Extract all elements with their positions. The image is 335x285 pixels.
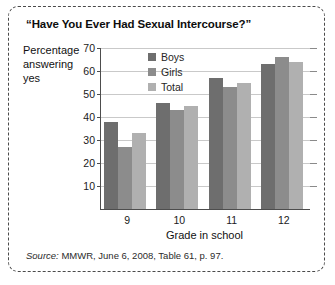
legend-item-girls: Girls: [148, 66, 184, 78]
page-title: “Have You Ever Had Sexual Intercourse?”: [26, 18, 251, 30]
bar-boys-grade-10: [156, 103, 170, 209]
y-axis-tick-right: [310, 140, 317, 141]
bar-total-grade-11: [237, 83, 251, 210]
x-axis-title: Grade in school: [100, 229, 309, 241]
x-axis-tick-label: 9: [104, 214, 150, 226]
plot-area: 706050403020109101112: [100, 48, 310, 210]
bar-group: 11: [209, 48, 255, 209]
source-note: Source: MMWR, June 6, 2008, Table 61, p.…: [26, 250, 223, 261]
bar-girls-grade-10: [170, 110, 184, 209]
legend-label: Total: [161, 81, 183, 93]
y-axis-tick: [97, 117, 101, 118]
bar-girls-grade-12: [275, 57, 289, 209]
y-axis-tick-right: [310, 163, 317, 164]
y-axis-tick: [97, 48, 101, 49]
figure-card: “Have You Ever Had Sexual Intercourse?” …: [8, 6, 325, 272]
source-label: Source:: [26, 250, 59, 261]
x-axis-tick-label: 10: [156, 214, 202, 226]
legend-swatch-icon: [148, 83, 156, 91]
legend-swatch-icon: [148, 68, 156, 76]
y-axis-tick-label: 30: [83, 134, 95, 146]
bar-total-grade-9: [132, 133, 146, 209]
legend-label: Boys: [161, 51, 184, 63]
source-text: MMWR, June 6, 2008, Table 61, p. 97.: [59, 250, 224, 261]
y-axis-title: Percentage answering yes: [23, 43, 85, 85]
legend-item-total: Total: [148, 81, 184, 93]
bar-boys-grade-9: [104, 122, 118, 209]
y-axis-title-line-1: Percentage: [23, 43, 85, 57]
y-axis-tick: [97, 94, 101, 95]
y-axis-tick-right: [310, 94, 317, 95]
legend-item-boys: Boys: [148, 51, 184, 63]
y-axis-tick: [97, 186, 101, 187]
legend-label: Girls: [161, 66, 183, 78]
y-axis-title-line-3: yes: [23, 71, 85, 85]
bar-boys-grade-12: [261, 64, 275, 209]
y-axis-tick-label: 70: [83, 42, 95, 54]
bar-group: 12: [261, 48, 307, 209]
y-axis-tick-right: [310, 71, 317, 72]
y-axis-tick-right: [310, 186, 317, 187]
y-axis-tick: [97, 163, 101, 164]
y-axis-tick-label: 10: [83, 180, 95, 192]
y-axis-tick-label: 20: [83, 157, 95, 169]
bar-girls-grade-11: [223, 87, 237, 209]
x-axis-tick-label: 11: [209, 214, 255, 226]
y-axis-tick: [97, 71, 101, 72]
bar-total-grade-10: [184, 106, 198, 210]
bar-group: 9: [104, 48, 150, 209]
bar-total-grade-12: [289, 62, 303, 209]
y-axis-tick-right: [310, 48, 317, 49]
y-axis-tick-label: 40: [83, 111, 95, 123]
y-axis-tick-label: 60: [83, 65, 95, 77]
y-axis-title-line-2: answering: [23, 57, 85, 71]
legend-swatch-icon: [148, 53, 156, 61]
y-axis-tick-label: 50: [83, 88, 95, 100]
chart-legend: BoysGirlsTotal: [148, 51, 184, 96]
x-axis-tick-label: 12: [261, 214, 307, 226]
y-axis-tick: [97, 140, 101, 141]
y-axis-tick-right: [310, 117, 317, 118]
bar-boys-grade-11: [209, 78, 223, 209]
bar-girls-grade-9: [118, 147, 132, 209]
